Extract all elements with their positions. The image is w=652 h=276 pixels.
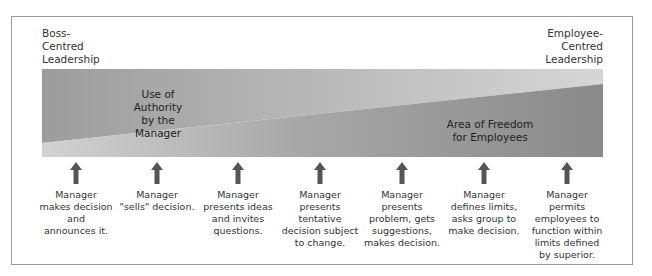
step-2-text: Manager "sells" decision. — [117, 189, 197, 213]
arrow-up-icon — [70, 162, 82, 184]
step-7-text: Manager permits employees to function wi… — [527, 189, 607, 261]
arrow-up-icon — [478, 162, 490, 184]
step-1-text: Manager makes decision and announces it. — [36, 189, 116, 237]
employee-centred-leadership-label: Employee- Centred Leadership — [545, 27, 603, 66]
step-6-text: Manager defines limits, asks group to ma… — [444, 189, 524, 237]
step-5-text: Manager presents problem, gets suggestio… — [362, 189, 442, 249]
step-4-text: Manager presents tentative decision subj… — [280, 189, 360, 249]
area-of-freedom-label: Area of Freedom for Employees — [445, 118, 535, 144]
boss-centred-leadership-label: Boss- Centred Leadership — [42, 27, 100, 66]
arrow-up-icon — [561, 162, 573, 184]
arrow-up-icon — [151, 162, 163, 184]
arrow-up-icon — [314, 162, 326, 184]
arrow-up-icon — [396, 162, 408, 184]
arrow-up-icon — [232, 162, 244, 184]
step-3-text: Manager presents ideas and invites quest… — [198, 189, 278, 237]
use-of-authority-label: Use of Authority by the Manager — [118, 88, 198, 140]
